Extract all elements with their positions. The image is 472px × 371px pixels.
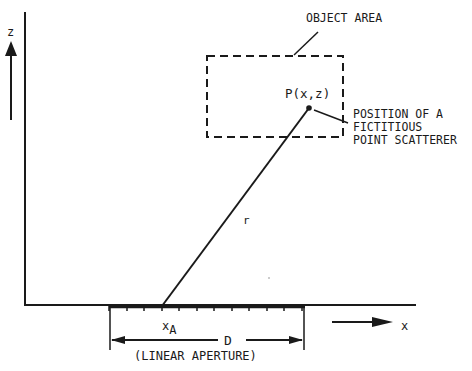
svg-text:POSITION OF A: POSITION OF A [353,107,443,121]
point-scatterer [306,105,312,111]
z-axis-label: z [7,25,14,39]
svg-text:FICTITIOUS: FICTITIOUS [353,120,422,134]
object-area-label: OBJECT AREA [306,11,382,25]
x-axis-label: x [401,319,408,333]
scan-speck [268,277,270,279]
z-direction-arrow [5,41,17,120]
element-position-label: xA [162,319,177,337]
object-area-leader [294,32,318,55]
range-label: r [243,214,250,227]
aperture-width-label: D [224,333,232,348]
svg-text:POINT SCATTERER: POINT SCATTERER [353,133,457,147]
x-direction-arrow [332,317,393,327]
aperture-caption: (LINEAR APERTURE) [134,349,257,363]
linear-aperture-diagram: z D xA (LINEAR APERTURE) x [0,0,472,371]
range-line [162,108,309,306]
aperture-width-dimension [111,336,303,344]
scatterer-note: POSITION OF A FICTITIOUS POINT SCATTERER [353,107,457,147]
point-label: P(x,z) [285,86,330,101]
aperture-array [109,306,305,311]
